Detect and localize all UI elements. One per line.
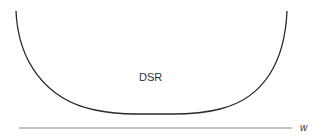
dsr-diagram: DSR w (0, 0, 323, 138)
dsr-curve (16, 11, 287, 114)
curve-label: DSR (139, 71, 162, 83)
axis-label-w: w (300, 122, 308, 133)
